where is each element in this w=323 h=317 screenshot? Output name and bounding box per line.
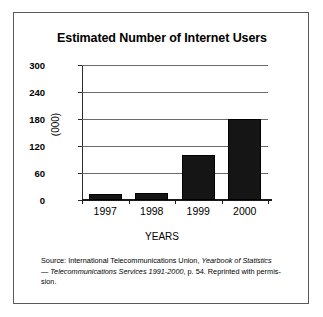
y-tick-label-240: 240: [11, 87, 45, 98]
figure-border: Estimated Number of Internet Users (000)…: [13, 12, 309, 304]
x-axis-title: YEARS: [14, 231, 310, 242]
source-line-1-plain: Source: International Telecommunications…: [41, 256, 202, 265]
x-axis-label-2000: 2000: [222, 205, 269, 217]
y-tick-label-120: 120: [11, 141, 45, 152]
x-tick-1999: [175, 199, 176, 204]
bar-1999: [182, 155, 215, 200]
y-tick-300: [78, 65, 82, 66]
source-line-2: — Telecommunications Services 1991-2000,…: [41, 267, 291, 278]
x-axis-label-1998: 1998: [129, 205, 176, 217]
chart-title: Estimated Number of Internet Users: [14, 31, 310, 45]
x-tick-1997: [82, 199, 83, 204]
chart-figure: Estimated Number of Internet Users (000)…: [0, 0, 323, 317]
x-tick-2000: [222, 199, 223, 204]
x-tick-1998: [129, 199, 130, 204]
gridline-240: [82, 92, 268, 93]
y-tick-60: [78, 173, 82, 174]
y-tick-label-60: 60: [11, 168, 45, 179]
source-line-1: Source: International Telecommunications…: [41, 256, 291, 267]
gridline-300: [82, 65, 268, 66]
y-tick-120: [78, 146, 82, 147]
y-tick-240: [78, 92, 82, 93]
x-tick-end: [268, 199, 269, 204]
y-tick-180: [78, 119, 82, 120]
x-axis-label-1999: 1999: [175, 205, 222, 217]
plot-area: 1997199819992000: [82, 65, 268, 200]
y-axis-title: (000): [50, 113, 61, 136]
source-line-1-italic: Yearbook of Statistics: [202, 256, 272, 265]
x-axis-label-1997: 1997: [82, 205, 129, 217]
bar-2000: [228, 119, 261, 200]
source-line-2-plain: , p. 54. Reprinted with permis-: [184, 267, 281, 276]
source-note: Source: International Telecommunications…: [41, 256, 291, 288]
y-tick-label-180: 180: [11, 114, 45, 125]
y-tick-label-300: 300: [11, 60, 45, 71]
bar-1998: [135, 193, 168, 200]
bar-1997: [89, 194, 122, 200]
source-line-2-italic: — Telecommunications Services 1991-2000: [41, 267, 184, 276]
y-tick-label-0: 0: [11, 195, 45, 206]
source-line-3: sion.: [41, 277, 291, 288]
y-axis-line: [82, 65, 83, 200]
